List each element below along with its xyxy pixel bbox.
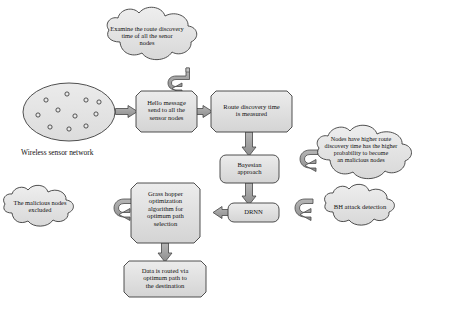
drnn-box	[228, 203, 279, 222]
arrow-grasshopper-to-routed	[158, 243, 172, 262]
wireless-sensor-network-caption: Wireless sensor network	[21, 148, 93, 157]
diagram-canvas: Examine the route discovery time of all …	[0, 0, 451, 309]
arrow-network-to-hello	[116, 106, 138, 118]
arrow-bh-to-drnn	[295, 199, 313, 221]
hello-message-box	[136, 91, 197, 132]
bh-attack-detection-cloud	[325, 184, 395, 225]
arrow-bayesian-to-drnn	[242, 183, 256, 205]
grasshopper-optimization-box	[131, 183, 200, 243]
arrow-route-to-bayesian	[242, 132, 256, 156]
arrow-drnn-to-grasshopper	[213, 207, 229, 219]
examine-route-discovery-cloud	[107, 7, 197, 59]
route-discovery-time-box	[211, 91, 292, 132]
wireless-sensor-network-ellipse	[23, 83, 115, 141]
arrow-grasshopper-to-excluded	[114, 199, 132, 221]
arrow-hello-to-route	[197, 106, 213, 118]
data-routed-box	[124, 261, 206, 297]
higher-route-discovery-cloud	[317, 125, 411, 178]
bayesian-approach-box	[220, 155, 279, 183]
arrow-examine-to-hello	[168, 68, 190, 94]
malicious-nodes-excluded-cloud	[4, 185, 74, 226]
arrow-higher-route-to-bayesian	[300, 150, 318, 172]
